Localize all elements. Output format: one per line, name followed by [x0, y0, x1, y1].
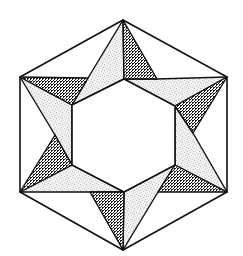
hexagon-pinwheel-diagram: [0, 0, 243, 256]
diagram-canvas: [0, 0, 243, 256]
